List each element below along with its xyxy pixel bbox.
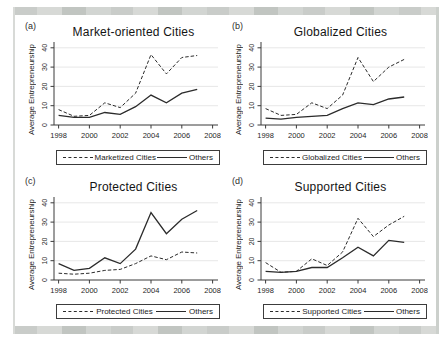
panel-label-d: (d) xyxy=(232,176,243,186)
legend-label-dashed: Protected Cities xyxy=(96,307,152,316)
svg-text:40: 40 xyxy=(41,198,48,206)
svg-text:2000: 2000 xyxy=(81,285,98,294)
line-plot-b: 010203040199820002002200420062008 xyxy=(246,39,428,142)
panel-c: (c) Protected Cities Average Entrepreneu… xyxy=(16,171,223,326)
svg-text:30: 30 xyxy=(248,63,255,71)
scan-band-top xyxy=(15,7,436,15)
svg-text:2004: 2004 xyxy=(143,285,160,294)
legend-label-solid: Others xyxy=(396,307,420,316)
line-plot-c: 010203040199820002002200420062008 xyxy=(39,194,221,297)
panel-d: (d) Supported Cities Average Entrepreneu… xyxy=(223,171,430,326)
svg-text:2002: 2002 xyxy=(319,131,336,140)
svg-text:1998: 1998 xyxy=(50,285,67,294)
dashed-line-sample xyxy=(63,157,93,158)
legend-label-solid: Others xyxy=(189,307,213,316)
svg-text:2006: 2006 xyxy=(173,131,190,140)
panel-title-b: Globalized Cities xyxy=(257,25,424,39)
panel-title-a: Market-oriented Cities xyxy=(50,25,217,39)
panel-label-b: (b) xyxy=(232,21,243,31)
svg-text:0: 0 xyxy=(41,123,48,127)
legend-label-solid: Others xyxy=(396,153,420,162)
legend-label-solid: Others xyxy=(189,153,213,162)
svg-text:30: 30 xyxy=(41,218,48,226)
svg-text:2006: 2006 xyxy=(380,285,397,294)
svg-text:2002: 2002 xyxy=(112,285,129,294)
svg-text:20: 20 xyxy=(248,237,255,245)
svg-text:40: 40 xyxy=(248,44,255,52)
dashed-line-sample xyxy=(63,311,93,312)
svg-text:30: 30 xyxy=(41,63,48,71)
figure-frame: (a) Market-oriented Cities Average Entre… xyxy=(13,7,439,334)
svg-text:10: 10 xyxy=(248,256,255,264)
svg-text:2006: 2006 xyxy=(380,131,397,140)
panel-label-c: (c) xyxy=(25,176,36,186)
svg-text:2008: 2008 xyxy=(411,131,428,140)
svg-text:2004: 2004 xyxy=(143,131,160,140)
svg-text:10: 10 xyxy=(248,102,255,110)
legend-a: Marketized Cities Others xyxy=(56,150,220,165)
svg-text:20: 20 xyxy=(41,82,48,90)
dashed-line-sample xyxy=(270,157,300,158)
legend-label-dashed: Globalized Cities xyxy=(302,153,362,162)
panel-grid: (a) Market-oriented Cities Average Entre… xyxy=(16,16,430,325)
svg-text:2006: 2006 xyxy=(173,285,190,294)
line-plot-a: 010203040199820002002200420062008 xyxy=(39,39,221,142)
panel-title-c: Protected Cities xyxy=(50,180,217,194)
svg-text:10: 10 xyxy=(41,102,48,110)
dashed-line-sample xyxy=(270,311,300,312)
legend-b: Globalized Cities Others xyxy=(263,150,427,165)
svg-text:0: 0 xyxy=(41,277,48,281)
line-plot-d: 010203040199820002002200420062008 xyxy=(246,194,428,297)
svg-text:2000: 2000 xyxy=(288,285,305,294)
y-axis-label: Average Entrepreneurship xyxy=(233,188,244,302)
svg-text:1998: 1998 xyxy=(50,131,67,140)
svg-text:1998: 1998 xyxy=(257,285,274,294)
y-axis-label: Average Entrepreneurship xyxy=(233,33,244,147)
svg-text:2008: 2008 xyxy=(204,131,221,140)
solid-line-sample xyxy=(364,311,394,312)
svg-text:2004: 2004 xyxy=(350,131,367,140)
y-axis-label: Average Entrepreneurship xyxy=(26,188,37,302)
svg-text:40: 40 xyxy=(248,198,255,206)
scan-band-bottom xyxy=(15,326,436,334)
panel-title-d: Supported Cities xyxy=(257,180,424,194)
legend-c: Protected Cities Others xyxy=(56,304,220,319)
svg-text:2000: 2000 xyxy=(288,131,305,140)
svg-text:0: 0 xyxy=(248,277,255,281)
solid-line-sample xyxy=(157,157,187,158)
svg-text:20: 20 xyxy=(248,82,255,90)
svg-text:0: 0 xyxy=(248,123,255,127)
svg-text:10: 10 xyxy=(41,256,48,264)
panel-b: (b) Globalized Cities Average Entreprene… xyxy=(223,16,430,171)
svg-text:1998: 1998 xyxy=(257,131,274,140)
panel-a: (a) Market-oriented Cities Average Entre… xyxy=(16,16,223,171)
panel-label-a: (a) xyxy=(25,21,36,31)
svg-text:2008: 2008 xyxy=(411,285,428,294)
svg-text:2002: 2002 xyxy=(112,131,129,140)
svg-text:2000: 2000 xyxy=(81,131,98,140)
legend-d: Supported Cities Others xyxy=(263,304,427,319)
svg-text:20: 20 xyxy=(41,237,48,245)
solid-line-sample xyxy=(156,311,186,312)
svg-text:30: 30 xyxy=(248,218,255,226)
svg-text:40: 40 xyxy=(41,44,48,52)
svg-text:2008: 2008 xyxy=(204,285,221,294)
svg-text:2004: 2004 xyxy=(350,285,367,294)
legend-label-dashed: Marketized Cities xyxy=(95,153,156,162)
svg-text:2002: 2002 xyxy=(319,285,336,294)
y-axis-label: Average Entrepreneurship xyxy=(26,33,37,147)
legend-label-dashed: Supported Cities xyxy=(302,307,361,316)
solid-line-sample xyxy=(364,157,394,158)
